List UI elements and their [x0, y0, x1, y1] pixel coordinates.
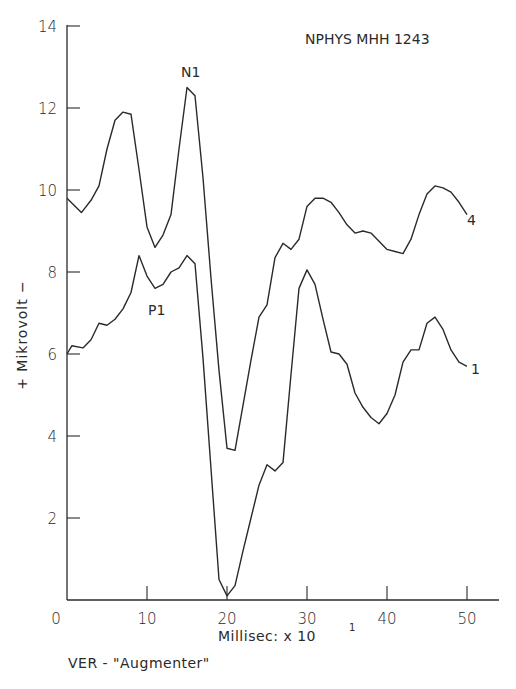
y-tick-label: 10	[38, 182, 57, 200]
y-tick-label: 8	[47, 264, 57, 282]
evoked-potential-chart: NPHYS MHH 1243 2468101214 01020304050 4 …	[0, 0, 516, 689]
n1-annotation: N1	[181, 64, 200, 80]
y-tick-label: 14	[38, 18, 57, 36]
y-axis-label: + Mikrovolt −	[14, 280, 30, 390]
x-axis-label: Millisec: x 10	[218, 628, 316, 644]
curve-1-label: 1	[471, 361, 480, 377]
p1-annotation: P1	[148, 302, 165, 318]
x-axis-ticks: 01020304050	[51, 586, 476, 628]
curve-4-line	[67, 88, 467, 451]
curve-4-label: 4	[467, 212, 476, 228]
x-axis-label-text: Millisec: x 10	[218, 628, 316, 644]
chart-caption: VER - "Augmenter"	[68, 655, 210, 671]
x-tick-label: 30	[297, 610, 316, 628]
y-tick-label: 2	[47, 510, 57, 528]
y-tick-label: 6	[47, 346, 57, 364]
x-tick-label: 10	[137, 610, 156, 628]
curve-1-line	[67, 256, 467, 596]
x-tick-label: 40	[377, 610, 396, 628]
y-tick-label: 4	[47, 428, 57, 446]
y-tick-label: 12	[38, 100, 57, 118]
x-axis-label-exponent: 1	[349, 622, 355, 633]
x-tick-label: 0	[51, 610, 61, 628]
x-tick-label: 50	[457, 610, 476, 628]
y-axis-ticks: 2468101214	[38, 18, 80, 528]
chart-title: NPHYS MHH 1243	[305, 31, 430, 47]
x-tick-label: 20	[217, 610, 236, 628]
